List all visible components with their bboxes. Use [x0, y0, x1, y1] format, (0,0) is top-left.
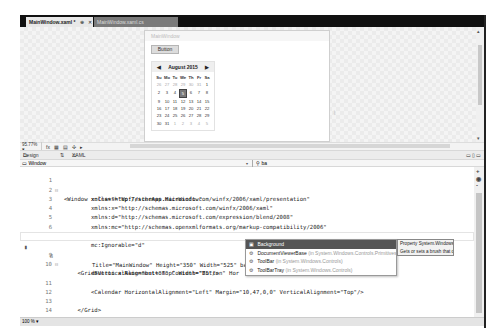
calendar-day[interactable]: 31	[195, 81, 203, 88]
completion-item[interactable]: ⚙ DocumentViewerBase (in System.Windows.…	[246, 249, 396, 258]
calendar-day[interactable]: 11	[171, 98, 179, 105]
zoom-in-icon[interactable]: +	[476, 168, 480, 174]
calendar-day[interactable]: 20	[187, 105, 195, 112]
designer-horizontal-scrollbar[interactable]	[130, 144, 450, 148]
calendar-day[interactable]: 30	[155, 120, 163, 127]
property-icon: ⚲	[256, 160, 260, 166]
calendar-day[interactable]: 4	[195, 120, 203, 127]
calendar-day[interactable]: 5	[203, 120, 211, 127]
calendar-control[interactable]: ◀ August 2015 ▶ Su Mo Tu We Th Fr Sa 26 …	[151, 61, 215, 131]
calendar-day[interactable]: 28	[171, 81, 179, 88]
editor-zoom-status[interactable]: 100 % ▾	[20, 317, 484, 326]
code-line[interactable]: 13 </Grid>	[20, 288, 474, 297]
code-line[interactable]: 12	[20, 279, 474, 288]
code-line[interactable]: 14 </Window>	[20, 297, 474, 306]
element-label: Window	[28, 160, 46, 166]
scroll-thumb[interactable]	[476, 193, 482, 313]
calendar-day[interactable]: 19	[179, 105, 187, 112]
editor-vertical-scrollbar[interactable]: + ◉ -	[474, 167, 484, 317]
calendar-day[interactable]: 2	[179, 120, 187, 127]
calendar-day[interactable]: 26	[155, 81, 163, 88]
code-line[interactable]: 5 xmlns:mc="http://schemas.openxmlformat…	[20, 204, 474, 213]
pin-icon[interactable]: ⊕	[80, 19, 84, 25]
code-line[interactable]: 1 ⊟ <Window x:Class="WpfTesterApp.MainWi…	[20, 167, 474, 176]
calendar-day[interactable]: 27	[187, 112, 195, 119]
designer-vertical-scrollbar[interactable]: ▴ ▾	[476, 27, 484, 142]
scroll-up-icon[interactable]: ▴	[477, 28, 480, 34]
calendar-day[interactable]: 31	[163, 120, 171, 127]
pane-layout-icons[interactable]: ▭▯▭	[466, 151, 482, 159]
zoom-reset-icon[interactable]: ◉	[476, 175, 481, 182]
property-icon: ▣	[249, 240, 256, 249]
calendar-day[interactable]: 28	[195, 112, 203, 119]
scroll-thumb[interactable]	[478, 45, 482, 105]
calendar-day[interactable]: 7	[195, 89, 203, 98]
calendar-day[interactable]: 1	[171, 120, 179, 127]
calendar-day[interactable]: 3	[187, 120, 195, 127]
calendar-month-label[interactable]: August 2015	[168, 64, 198, 70]
snap-snaplines-icon[interactable]: ✣	[72, 144, 76, 150]
close-icon[interactable]: ✕	[88, 19, 92, 25]
calendar-day[interactable]: 2	[155, 89, 163, 98]
effects-toggle-icon[interactable]: fx	[46, 144, 50, 150]
code-line[interactable]: 6 xmlns:local="clr-namespace:WpfTesterAp…	[20, 214, 474, 223]
wpf-button-control[interactable]: Button	[151, 45, 179, 54]
tab-xaml-label: XAML	[72, 151, 86, 159]
calendar-day[interactable]: 3	[163, 89, 171, 98]
swap-panes-icon[interactable]: ⇅	[60, 151, 64, 159]
scroll-down-icon[interactable]: ▾	[477, 135, 480, 141]
calendar-day[interactable]: 14	[195, 98, 203, 105]
completion-name: ToolBarTray	[257, 267, 284, 273]
intellisense-completion-list[interactable]: ▣ Background ⚙ DocumentViewerBase (in Sy…	[245, 239, 397, 276]
calendar-day[interactable]: 23	[155, 112, 163, 119]
tab-mainwindow-xaml-cs[interactable]: MainWindow.xaml.cs	[94, 17, 178, 27]
wpf-window-preview[interactable]: MainWindow Button ◀ August 2015 ▶ Su Mo …	[144, 30, 330, 142]
calendar-day[interactable]: 29	[203, 112, 211, 119]
prev-month-icon[interactable]: ◀	[157, 64, 161, 70]
calendar-day[interactable]: 12	[179, 98, 187, 105]
resize-grip[interactable]: ⌇	[333, 109, 336, 116]
member-dropdown[interactable]: ⚲ ba	[252, 160, 267, 167]
code-line[interactable]: 3 xmlns:x="http://schemas.microsoft.com/…	[20, 186, 474, 195]
calendar-day[interactable]: 22	[203, 105, 211, 112]
calendar-day[interactable]: 27	[163, 81, 171, 88]
zoom-out-icon[interactable]: -	[476, 182, 478, 188]
tab-mainwindow-xaml[interactable]: MainWindow.xaml * ⊕ ✕	[26, 17, 93, 27]
calendar-day[interactable]: 21	[195, 105, 203, 112]
completion-item-selected[interactable]: ▣ Background	[246, 240, 396, 249]
chevron-down-icon[interactable]: ▾	[246, 160, 248, 167]
calendar-day[interactable]: 26	[179, 112, 187, 119]
calendar-day[interactable]: 6	[187, 89, 195, 98]
completion-namespace: (in System.Windows.Controls)	[285, 267, 352, 273]
completion-name: ToolBar	[257, 258, 274, 264]
calendar-day[interactable]: 30	[187, 81, 195, 88]
code-line[interactable]: 2 xmlns="http://schemas.microsoft.com/wi…	[20, 176, 474, 185]
calendar-day[interactable]: 16	[155, 105, 163, 112]
completion-item[interactable]: ⚙ ToolBar (in System.Windows.Controls)	[246, 257, 396, 266]
grid-toggle-icon[interactable]: ▦	[54, 144, 59, 150]
code-line[interactable]: 7 mc:Ignorable="d"	[20, 223, 474, 232]
calendar-day[interactable]: 10	[163, 98, 171, 105]
calendar-day[interactable]: 29	[179, 81, 187, 88]
design-surface[interactable]: MainWindow Button ◀ August 2015 ▶ Su Mo …	[20, 27, 476, 142]
calendar-day[interactable]: 8	[203, 89, 211, 98]
completion-item[interactable]: ⚙ ToolBarTray (in System.Windows.Control…	[246, 266, 396, 275]
xaml-navigation-bar: ▭ Window ▾ ⚲ ba	[20, 159, 484, 167]
code-line[interactable]: 4 xmlns:d="http://schemas.microsoft.com/…	[20, 195, 474, 204]
calendar-day[interactable]: 18	[171, 105, 179, 112]
calendar-day[interactable]: 17	[163, 105, 171, 112]
calendar-day[interactable]: 13	[187, 98, 195, 105]
scroll-left-icon[interactable]: ▸	[80, 144, 83, 150]
calendar-day[interactable]: 24	[163, 112, 171, 119]
day-header: Su	[155, 74, 163, 81]
calendar-day[interactable]: 4	[171, 89, 179, 98]
calendar-day[interactable]: 25	[171, 112, 179, 119]
calendar-day[interactable]: 9	[155, 98, 163, 105]
next-month-icon[interactable]: ▶	[205, 64, 209, 70]
element-dropdown[interactable]: ▭ Window	[22, 160, 252, 167]
calendar-day[interactable]: 15	[203, 98, 211, 105]
calendar-day-selected[interactable]: 5	[179, 89, 187, 98]
code-text: </Grid>	[64, 306, 101, 315]
calendar-day[interactable]: 1	[203, 81, 211, 88]
snap-gridlines-icon[interactable]: ▤	[63, 144, 68, 150]
